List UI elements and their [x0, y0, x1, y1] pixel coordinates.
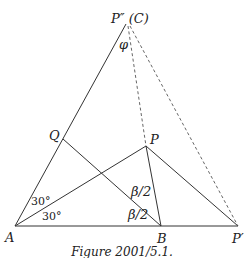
label-P-prime: P′: [231, 231, 244, 246]
label-B: B: [156, 231, 167, 246]
label-Q: Q: [49, 128, 60, 143]
segment-AP: [15, 146, 146, 226]
angle-label-30-lower: 30°: [42, 210, 62, 223]
angle-label-30-upper: 30°: [31, 195, 51, 208]
geometry-diagram: P″ (C) φ Q P A B P′ 30° 30° β/2 β/2 Figu…: [0, 0, 244, 258]
figure-caption: Figure 2001/5.1.: [70, 245, 173, 258]
label-C: P″ (C): [110, 11, 149, 26]
label-P: P: [149, 132, 159, 147]
angle-label-beta-lower: β/2: [127, 207, 148, 222]
dashed-CP: [128, 26, 146, 146]
segment-PP-prime: [146, 146, 238, 226]
label-phi: φ: [119, 37, 129, 52]
angle-label-beta-upper: β/2: [130, 184, 151, 199]
label-A: A: [4, 230, 14, 245]
